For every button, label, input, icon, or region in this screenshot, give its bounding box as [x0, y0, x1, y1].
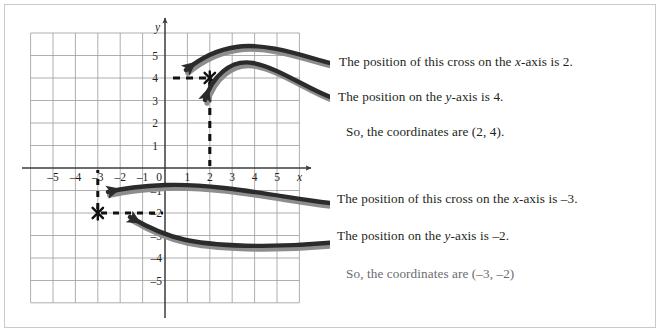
y-tick-5: 5 — [152, 50, 158, 62]
figure-page: –5 –4 –3 –2 –1 0 1 2 3 4 5 x 5 4 3 2 1 –… — [0, 0, 660, 332]
x-tick--2: –2 — [113, 171, 126, 183]
y-tick--5: –5 — [150, 275, 163, 287]
x-tick--5: –5 — [46, 171, 59, 183]
x-axis-tick-labels: –5 –4 –3 –2 –1 0 1 2 3 4 5 x — [46, 171, 303, 183]
x-tick-5: 5 — [274, 171, 280, 183]
x-tick--1: –1 — [136, 171, 149, 183]
annotation-bottom-conclusion: So, the coordinates are (–3, –2) — [346, 266, 514, 282]
annotation-top-line-2-prefix: The position on the — [338, 89, 446, 104]
callout-arrow-4 — [130, 217, 330, 246]
annotation-bottom-line-1-prefix: The position of this cross on the — [337, 191, 513, 206]
y-tick--4: –4 — [150, 252, 163, 264]
guide-lines-point-1 — [167, 78, 210, 166]
annotation-top-line-2-suffix: -axis is 4. — [451, 89, 503, 104]
x-tick--4: –4 — [69, 171, 82, 183]
y-tick-3: 3 — [152, 95, 158, 107]
callout-arrows — [108, 46, 330, 249]
x-tick-4: 4 — [252, 171, 258, 183]
coordinate-graph-svg: –5 –4 –3 –2 –1 0 1 2 3 4 5 x 5 4 3 2 1 –… — [0, 0, 330, 332]
x-axis-label: x — [296, 171, 303, 183]
y-axis-label: y — [154, 21, 161, 34]
annotation-text-block: The position of this cross on the x-axis… — [333, 0, 660, 332]
x-tick-3: 3 — [229, 171, 235, 183]
y-tick-4: 4 — [152, 72, 158, 84]
annotation-top-line-2: The position on the y-axis is 4. — [338, 89, 503, 105]
annotation-bottom-line-2: The position on the y-axis is –2. — [337, 228, 509, 244]
y-tick-2: 2 — [152, 117, 158, 129]
y-tick-1: 1 — [152, 140, 158, 152]
x-tick-1: 1 — [185, 171, 191, 183]
annotation-top-line-1-prefix: The position of this cross on the — [339, 54, 515, 69]
coordinate-graph: –5 –4 –3 –2 –1 0 1 2 3 4 5 x 5 4 3 2 1 –… — [0, 0, 330, 332]
annotation-bottom-line-2-suffix: -axis is –2. — [450, 228, 509, 243]
annotation-bottom-line-1: The position of this cross on the x-axis… — [337, 191, 578, 207]
annotation-bottom-line-1-suffix: -axis is –3. — [519, 191, 578, 206]
annotation-top-conclusion: So, the coordinates are (2, 4). — [346, 124, 504, 140]
callout-arrow-2 — [205, 62, 330, 100]
annotation-top-line-1-suffix: -axis is 2. — [521, 54, 573, 69]
annotation-bottom-line-2-prefix: The position on the — [337, 228, 445, 243]
x-tick-0: 0 — [156, 171, 162, 183]
y-axis-tick-labels: 5 4 3 2 1 –1 –2 –3 –4 –5 y — [150, 21, 163, 287]
annotation-top-line-1: The position of this cross on the x-axis… — [339, 54, 573, 70]
x-tick-2: 2 — [207, 171, 213, 183]
